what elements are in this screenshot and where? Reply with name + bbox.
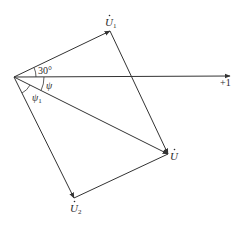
label-u2: U2: [70, 201, 82, 216]
phasor-diagram: +1 30° ψ ψ1 U1 U U2: [0, 0, 246, 228]
parallelogram-side-u1-u: [110, 31, 168, 154]
angle-psi-label: ψ: [46, 80, 53, 91]
parallelogram-side-u2-u: [74, 154, 168, 198]
real-axis: [14, 76, 230, 77]
label-u: U: [170, 149, 179, 162]
angle-30-label: 30°: [38, 65, 52, 76]
axis-label: +1: [220, 77, 231, 88]
phasor-u: [14, 77, 168, 154]
phasor-u1: [14, 31, 110, 77]
label-u1: U1: [105, 15, 117, 30]
svg-text:U1: U1: [105, 16, 117, 30]
arc-psi1: [22, 85, 30, 93]
svg-text:U: U: [170, 150, 179, 162]
phasor-u2: [14, 77, 74, 198]
arc-psi: [41, 77, 44, 91]
svg-text:U2: U2: [70, 202, 82, 216]
arc-30: [34, 68, 36, 78]
angle-psi1-label: ψ1: [32, 92, 42, 105]
